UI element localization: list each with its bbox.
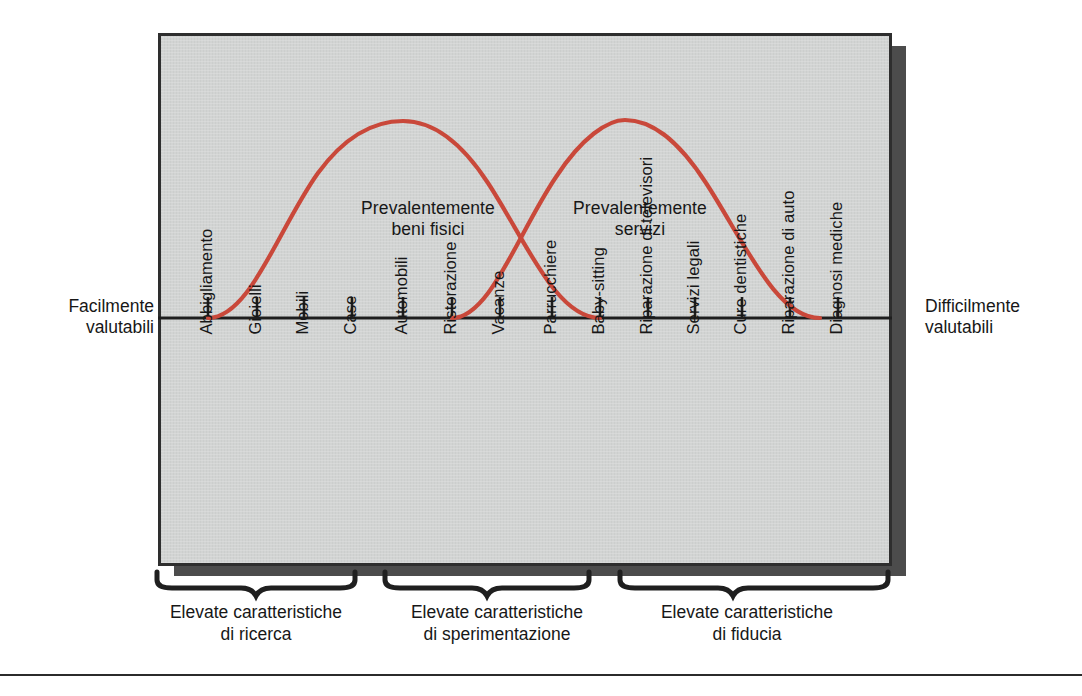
x-tick-label: Mobili <box>294 291 311 335</box>
axis-label-left-line2: valutabili <box>68 317 154 338</box>
x-tick-label: Cure dentistiche <box>732 214 749 335</box>
bracket-caption-experience-line2: di sperimentazione <box>380 624 614 646</box>
x-tick-label: Automobili <box>393 256 410 334</box>
bracket-caption-research: Elevate caratteristiche di ricerca <box>148 602 364 646</box>
bracket-research <box>157 572 355 596</box>
annotation-physical-goods-line1: Prevalentemente <box>333 198 523 219</box>
figure-root: Prevalentemente beni fisici Prevalenteme… <box>0 0 1082 696</box>
bracket-caption-experience-line1: Elevate caratteristiche <box>380 602 614 624</box>
annotation-physical-goods: Prevalentemente beni fisici <box>333 198 523 241</box>
bracket-experience <box>385 572 589 596</box>
bracket-caption-research-line2: di ricerca <box>148 624 364 646</box>
x-tick-label: Abbigliamento <box>198 229 215 335</box>
x-tick-label: Case <box>342 296 359 335</box>
axis-label-left-line1: Facilmente <box>68 296 154 317</box>
x-tick-label: Ristorazione <box>442 242 459 335</box>
annotation-physical-goods-line2: beni fisici <box>333 219 523 240</box>
x-tick-label: Servizi legali <box>685 240 702 334</box>
x-tick-label: Vacanze <box>490 271 507 335</box>
x-tick-label: Diagnosi mediche <box>828 202 845 335</box>
axis-label-right-line2: valutabili <box>925 317 1020 338</box>
x-tick-label: Baby-sitting <box>590 247 607 334</box>
bracket-caption-credence: Elevate caratteristiche di fiducia <box>630 602 864 646</box>
bracket-caption-credence-line1: Elevate caratteristiche <box>630 602 864 624</box>
bracket-credence <box>620 572 888 596</box>
x-tick-label: Riparazione di auto <box>780 190 797 334</box>
x-tick-label: Gioielli <box>247 284 264 334</box>
bracket-caption-research-line1: Elevate caratteristiche <box>148 602 364 624</box>
bottom-brackets <box>0 566 1082 606</box>
axis-label-right-line1: Difficilmente <box>925 296 1020 317</box>
axis-label-left: Facilmente valutabili <box>68 296 154 339</box>
x-tick-label: Riparazione di televisori <box>638 157 655 335</box>
x-tick-label: Parrucchiere <box>542 240 559 335</box>
bracket-caption-experience: Elevate caratteristiche di sperimentazio… <box>380 602 614 646</box>
page-bottom-rule <box>0 674 1082 676</box>
axis-label-right: Difficilmente valutabili <box>925 296 1020 339</box>
bracket-caption-credence-line2: di fiducia <box>630 624 864 646</box>
